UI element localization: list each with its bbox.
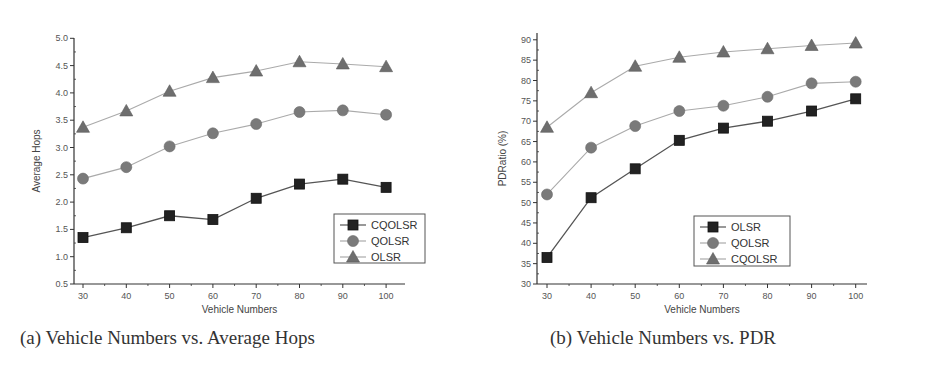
y-tick-label: 60 bbox=[521, 157, 531, 167]
data-point-olsr bbox=[851, 94, 861, 104]
data-point-olsr bbox=[718, 123, 728, 133]
legend-label: OLSR bbox=[731, 221, 761, 233]
legend-label: CQOLSR bbox=[731, 253, 778, 265]
data-point-qolsr bbox=[762, 91, 773, 102]
data-point-qolsr bbox=[251, 119, 262, 130]
x-tick-label: 60 bbox=[208, 291, 218, 301]
x-axis-title: Vehicle Numbers bbox=[664, 304, 740, 315]
series-line-qolsr bbox=[547, 82, 856, 195]
y-tick-label: 5.0 bbox=[55, 33, 68, 43]
data-point-olsr bbox=[120, 104, 133, 116]
x-tick-label: 90 bbox=[338, 291, 348, 301]
data-point-olsr bbox=[674, 135, 684, 145]
legend-label: QOLSR bbox=[371, 235, 410, 247]
y-tick-label: 80 bbox=[521, 76, 531, 86]
y-tick-label: 1.0 bbox=[55, 252, 68, 262]
data-point-cqolsr bbox=[165, 211, 175, 221]
data-point-olsr bbox=[807, 106, 817, 116]
y-tick-label: 4.0 bbox=[55, 88, 68, 98]
data-point-cqolsr bbox=[295, 179, 305, 189]
legend-marker-circle-icon bbox=[708, 238, 719, 249]
data-point-qolsr bbox=[674, 106, 685, 117]
y-tick-label: 4.5 bbox=[55, 61, 68, 71]
chart-a-plot: 0.51.01.52.02.53.03.54.04.55.03040506070… bbox=[0, 0, 465, 330]
data-point-olsr bbox=[630, 164, 640, 174]
y-tick-label: 90 bbox=[521, 35, 531, 45]
y-tick-label: 30 bbox=[521, 279, 531, 289]
legend-marker-circle-icon bbox=[348, 236, 359, 247]
y-tick-label: 0.5 bbox=[55, 279, 68, 289]
legend-label: QOLSR bbox=[731, 237, 770, 249]
data-point-qolsr bbox=[542, 189, 553, 200]
data-point-qolsr bbox=[630, 121, 641, 132]
data-point-qolsr bbox=[337, 105, 348, 116]
y-axis-title: PDRatio (%) bbox=[497, 131, 508, 187]
x-axis-title: Vehicle Numbers bbox=[202, 304, 278, 315]
data-point-cqolsr bbox=[585, 86, 598, 98]
data-point-cqolsr bbox=[78, 233, 88, 243]
y-tick-label: 55 bbox=[521, 177, 531, 187]
y-tick-label: 50 bbox=[521, 198, 531, 208]
data-point-qolsr bbox=[586, 142, 597, 153]
y-tick-label: 40 bbox=[521, 238, 531, 248]
caption-average-hops: (a) Vehicle Numbers vs. Average Hops bbox=[20, 327, 315, 349]
x-tick-label: 50 bbox=[165, 291, 175, 301]
x-tick-label: 40 bbox=[121, 291, 131, 301]
x-tick-label: 40 bbox=[586, 291, 596, 301]
chart-b-plot: 3035404550556065707580859030405060708090… bbox=[465, 0, 935, 330]
x-tick-label: 80 bbox=[762, 291, 772, 301]
x-tick-label: 80 bbox=[294, 291, 304, 301]
x-tick-label: 100 bbox=[848, 291, 863, 301]
y-tick-label: 65 bbox=[521, 137, 531, 147]
data-point-olsr bbox=[586, 193, 596, 203]
data-point-olsr bbox=[542, 253, 552, 263]
caption-pdr: (b) Vehicle Numbers vs. PDR bbox=[550, 327, 776, 349]
data-point-olsr bbox=[293, 55, 306, 67]
y-tick-label: 85 bbox=[521, 55, 531, 65]
data-point-qolsr bbox=[78, 173, 89, 184]
y-tick-label: 75 bbox=[521, 96, 531, 106]
data-point-qolsr bbox=[850, 76, 861, 87]
data-point-qolsr bbox=[381, 109, 392, 120]
data-point-qolsr bbox=[121, 162, 132, 173]
x-tick-label: 100 bbox=[379, 291, 394, 301]
data-point-qolsr bbox=[164, 141, 175, 152]
chart-average-hops: 0.51.01.52.02.53.03.54.04.55.03040506070… bbox=[0, 0, 465, 367]
x-tick-label: 60 bbox=[674, 291, 684, 301]
data-point-cqolsr bbox=[251, 193, 261, 203]
y-tick-label: 35 bbox=[521, 259, 531, 269]
legend-label: CQOLSR bbox=[371, 219, 418, 231]
data-point-cqolsr bbox=[849, 37, 862, 49]
y-tick-label: 3.0 bbox=[55, 143, 68, 153]
data-point-qolsr bbox=[806, 78, 817, 89]
y-tick-label: 1.5 bbox=[55, 224, 68, 234]
series-line-olsr bbox=[83, 62, 386, 128]
x-tick-label: 30 bbox=[78, 291, 88, 301]
legend-marker-square-icon bbox=[348, 220, 358, 230]
x-tick-label: 90 bbox=[807, 291, 817, 301]
data-point-qolsr bbox=[718, 100, 729, 111]
data-point-qolsr bbox=[207, 128, 218, 139]
x-tick-label: 70 bbox=[718, 291, 728, 301]
data-point-qolsr bbox=[294, 107, 305, 118]
x-tick-label: 30 bbox=[542, 291, 552, 301]
data-point-olsr bbox=[763, 116, 773, 126]
data-point-cqolsr bbox=[208, 215, 218, 225]
chart-pdr: 3035404550556065707580859030405060708090… bbox=[465, 0, 935, 367]
y-tick-label: 70 bbox=[521, 116, 531, 126]
y-axis-title: Average Hops bbox=[31, 129, 42, 192]
y-tick-label: 3.5 bbox=[55, 115, 68, 125]
legend-marker-square-icon bbox=[708, 222, 718, 232]
x-tick-label: 50 bbox=[630, 291, 640, 301]
data-point-cqolsr bbox=[541, 121, 554, 132]
y-tick-label: 2.0 bbox=[55, 197, 68, 207]
data-point-olsr bbox=[77, 121, 90, 133]
y-tick-label: 45 bbox=[521, 218, 531, 228]
x-tick-label: 70 bbox=[251, 291, 261, 301]
data-point-cqolsr bbox=[121, 223, 131, 233]
data-point-cqolsr bbox=[338, 174, 348, 184]
y-tick-label: 2.5 bbox=[55, 170, 68, 180]
legend-label: OLSR bbox=[371, 251, 401, 263]
data-point-olsr bbox=[163, 85, 176, 97]
data-point-cqolsr bbox=[381, 182, 391, 192]
